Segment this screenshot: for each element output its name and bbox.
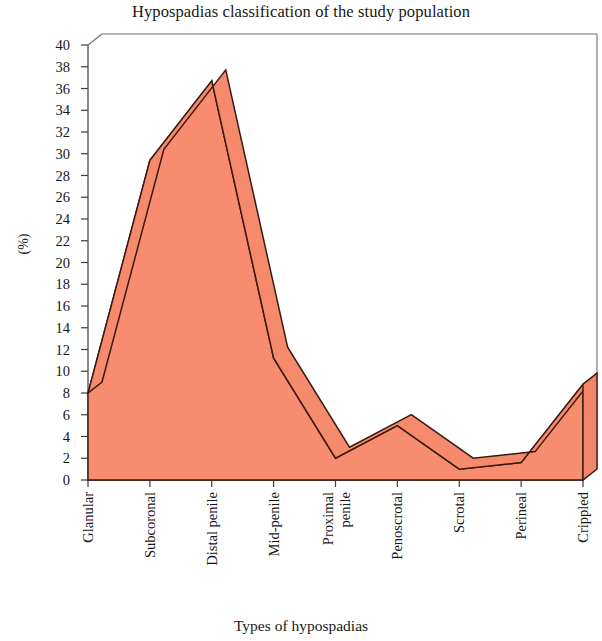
svg-text:40: 40 <box>56 37 71 53</box>
svg-text:Distal penile: Distal penile <box>204 492 220 566</box>
svg-text:4: 4 <box>63 429 71 445</box>
y-axis-tick-labels: 4038363432302826242220181614121086420 <box>56 37 71 488</box>
svg-text:14: 14 <box>56 320 71 336</box>
svg-text:26: 26 <box>56 189 71 205</box>
svg-text:Scrotal: Scrotal <box>451 492 467 533</box>
svg-text:Proximal: Proximal <box>320 492 336 545</box>
svg-text:20: 20 <box>56 255 71 271</box>
svg-text:Subcoronal: Subcoronal <box>142 492 158 558</box>
svg-text:Glanular: Glanular <box>80 492 96 543</box>
chart-plot-area: 4038363432302826242220181614121086420 Gl… <box>0 0 602 641</box>
svg-text:Crippled: Crippled <box>575 491 591 542</box>
svg-text:38: 38 <box>56 59 71 75</box>
svg-text:30: 30 <box>56 146 71 162</box>
chart-container: Hypospadias classification of the study … <box>0 0 602 641</box>
svg-text:10: 10 <box>56 363 71 379</box>
svg-text:12: 12 <box>56 342 71 358</box>
svg-text:22: 22 <box>56 233 71 249</box>
svg-text:18: 18 <box>56 276 71 292</box>
svg-text:Penoscrotal: Penoscrotal <box>389 492 405 560</box>
svg-text:36: 36 <box>56 81 71 97</box>
svg-text:6: 6 <box>63 407 70 423</box>
svg-text:8: 8 <box>63 385 70 401</box>
svg-text:Perineal: Perineal <box>513 492 529 540</box>
svg-text:24: 24 <box>56 211 71 227</box>
x-axis-label: Types of hypospadias <box>0 617 602 635</box>
y-axis-tick-marks <box>81 45 88 480</box>
svg-text:32: 32 <box>56 124 71 140</box>
area-series <box>88 70 597 480</box>
svg-text:16: 16 <box>56 298 71 314</box>
svg-text:penile: penile <box>337 492 353 527</box>
svg-text:0: 0 <box>63 472 70 488</box>
svg-text:34: 34 <box>56 102 71 118</box>
svg-text:2: 2 <box>63 450 70 466</box>
x-axis-tick-labels: GlanularSubcoronalDistal penileMid-penil… <box>80 491 591 565</box>
svg-text:28: 28 <box>56 168 71 184</box>
svg-text:Mid-penile: Mid-penile <box>266 492 282 556</box>
x-axis-tick-marks <box>88 480 583 487</box>
